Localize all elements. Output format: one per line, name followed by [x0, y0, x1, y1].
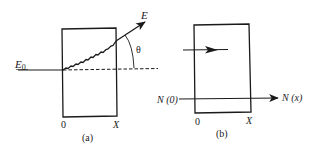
- angle-label: θ: [136, 44, 141, 55]
- incident-label: E0: [14, 58, 26, 72]
- exit-beam-arrow: [116, 22, 145, 41]
- left-boundary-label-a: 0: [61, 119, 66, 130]
- left-boundary-label-b: 0: [195, 116, 200, 127]
- output-label: N (x): [281, 92, 303, 104]
- slab-box-a: [62, 28, 117, 117]
- angle-arc: [125, 35, 134, 68]
- exit-label: E: [140, 9, 148, 21]
- right-boundary-label-a: X: [112, 119, 120, 130]
- slab-box-b: [194, 24, 251, 113]
- input-label: N (0): [156, 94, 179, 106]
- caption-a: (a): [82, 132, 93, 144]
- caption-b: (b): [216, 128, 228, 140]
- panel-a: E0 E θ 0 X (a): [14, 9, 158, 144]
- panel-b: N (0) N (x) 0 X (b): [156, 24, 303, 140]
- internal-flux-arrow: [183, 50, 228, 51]
- dashed-reference-line: [63, 69, 158, 71]
- transmitted-beam-arrow: [179, 98, 278, 99]
- right-boundary-label-b: X: [245, 115, 253, 126]
- diagram-canvas: E0 E θ 0 X (a) N (0) N (x) 0 X (b): [0, 0, 316, 153]
- scattered-path: [63, 41, 116, 70]
